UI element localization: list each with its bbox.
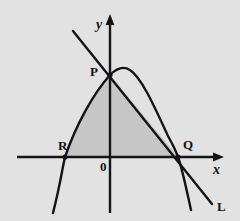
x-axis-label: x [213, 163, 220, 177]
point-label-p: P [90, 65, 98, 78]
point-label-r: R [58, 139, 67, 152]
point-label-q: Q [183, 138, 193, 151]
geometry-figure [0, 0, 240, 221]
y-axis-label: y [96, 18, 102, 32]
point-q-marker [175, 154, 180, 159]
figure-container: P R Q 0 x y L [0, 0, 240, 221]
x-axis-arrowhead [213, 153, 224, 162]
y-axis-arrowhead [106, 14, 115, 25]
line-label-l: L [217, 200, 226, 213]
point-p-marker [107, 72, 112, 77]
point-r-marker [62, 154, 67, 159]
origin-label: 0 [100, 160, 107, 173]
